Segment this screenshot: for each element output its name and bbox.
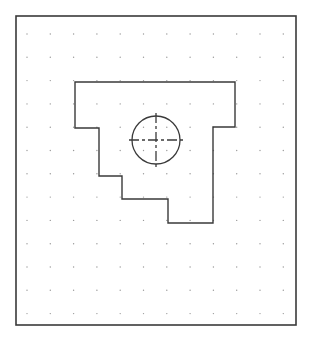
grid-dot [96,243,97,244]
grid-dot [189,266,190,267]
grid-dot [143,243,144,244]
grid-dot [259,57,260,58]
grid-dot [213,290,214,291]
grid-dot [120,80,121,81]
grid-dot [166,196,167,197]
grid-dot [96,150,97,151]
grid-dot [50,150,51,151]
grid-dot [73,313,74,314]
grid-dot [120,103,121,104]
grid-dot [143,196,144,197]
grid-dot [50,243,51,244]
grid-dot [96,173,97,174]
grid-dot [236,243,237,244]
grid-dot [283,243,284,244]
grid-dot [166,150,167,151]
grid-dot [73,243,74,244]
grid-dot [259,127,260,128]
grid-dot [73,266,74,267]
grid-dot [166,243,167,244]
grid-dot [26,173,27,174]
grid-dot [236,196,237,197]
grid-dot [73,173,74,174]
grid-dot [213,80,214,81]
grid-dot [236,290,237,291]
grid-dot [189,243,190,244]
grid-dot [283,220,284,221]
grid-dot [120,220,121,221]
grid-dot [166,80,167,81]
grid-dot [259,290,260,291]
grid-dot [120,196,121,197]
grid-dot [50,80,51,81]
grid-dot [143,103,144,104]
grid-dot [73,57,74,58]
grid-dot [26,243,27,244]
grid-dot [259,266,260,267]
grid-dot [73,127,74,128]
grid-dot [189,220,190,221]
grid-dot [50,196,51,197]
grid-dot [120,243,121,244]
grid-dot [236,103,237,104]
grid-dot [236,80,237,81]
grid-dot [283,57,284,58]
grid-dot [213,266,214,267]
grid-dot [189,103,190,104]
grid-dot [26,196,27,197]
grid-dot [120,57,121,58]
grid-dot [213,103,214,104]
grid-dot [50,57,51,58]
grid-dot [120,150,121,151]
grid-dot [73,196,74,197]
grid-dot [213,313,214,314]
grid-dot [73,150,74,151]
grid-dot [96,33,97,34]
grid-dot [26,127,27,128]
grid-dot [143,33,144,34]
grid-dot [96,80,97,81]
grid-dot [283,80,284,81]
grid-dot [73,103,74,104]
grid-dot [236,266,237,267]
grid-dot [96,196,97,197]
grid-dot [166,266,167,267]
grid-dot [143,313,144,314]
grid-dot [166,33,167,34]
grid-dot [236,220,237,221]
grid-dot [50,127,51,128]
grid-dot [213,243,214,244]
part-outline-polygon[interactable] [75,82,235,223]
cad-drawing-canvas[interactable] [0,0,312,340]
grid-dot [259,243,260,244]
grid-dot [166,313,167,314]
grid-dot [73,33,74,34]
drawing-frame [16,16,296,325]
grid-dot [166,127,167,128]
grid-dot [283,196,284,197]
grid-dot [259,80,260,81]
grid-dot [143,173,144,174]
grid-dot [189,313,190,314]
grid-dot [166,57,167,58]
grid-dot [50,173,51,174]
grid-dot [73,290,74,291]
grid-dot [50,33,51,34]
grid-dot [120,290,121,291]
grid-dot [96,103,97,104]
grid-dot [189,33,190,34]
grid-dot [283,290,284,291]
grid-dot [283,103,284,104]
grid-dot [73,220,74,221]
grid-dot [143,266,144,267]
grid-dot [236,127,237,128]
grid-dot [143,220,144,221]
grid-dot [26,103,27,104]
grid-dot [143,127,144,128]
grid-dot [283,127,284,128]
grid-dot [120,313,121,314]
grid-dot [143,80,144,81]
grid-dot [189,290,190,291]
grid-dot [259,33,260,34]
grid-dot [166,103,167,104]
